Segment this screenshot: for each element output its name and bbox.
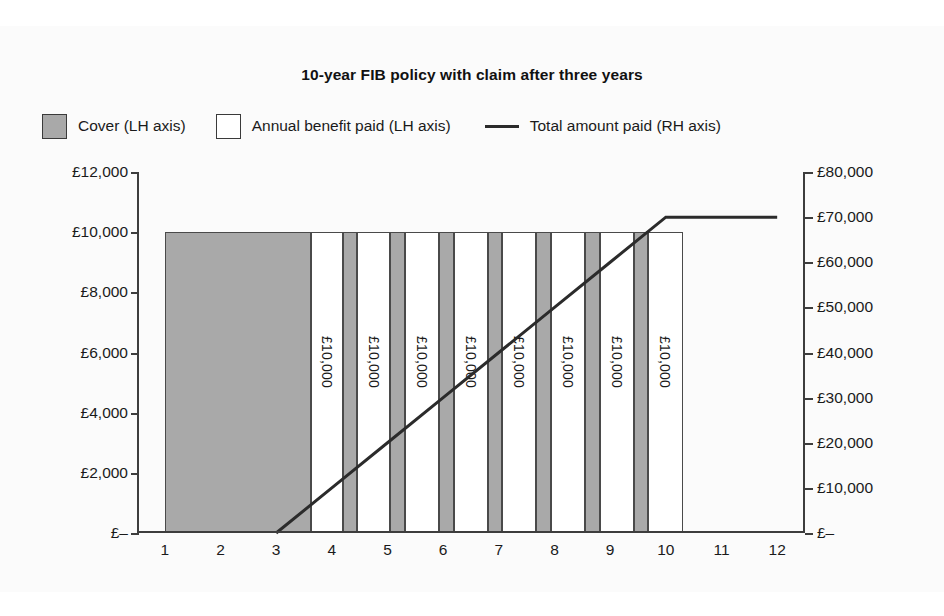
legend-label-annual-benefit: Annual benefit paid (LH axis) [252, 117, 451, 135]
right-axis-labels: £–£10,000£20,000£30,000£40,000£50,000£60… [817, 172, 927, 533]
x-axis-labels: 123456789101112 [137, 541, 805, 569]
legend-swatch-benefit-icon [216, 114, 241, 139]
x-axis-tick-label: 4 [328, 541, 337, 559]
right-axis-tick-mark [805, 533, 813, 535]
chart-legend: Cover (LH axis) Annual benefit paid (LH … [42, 110, 906, 142]
right-axis-tick-mark [805, 488, 813, 490]
legend-item-annual-benefit: Annual benefit paid (LH axis) [216, 114, 451, 139]
right-axis-tick-label: £40,000 [817, 345, 873, 361]
chart-title: 10-year FIB policy with claim after thre… [0, 66, 944, 84]
x-axis-tick-label: 2 [216, 541, 225, 559]
plot-area: £10,000£10,000£10,000£10,000£10,000£10,0… [137, 172, 805, 533]
left-axis-labels: £–£2,000£4,000£6,000£8,000£10,000£12,000 [28, 172, 128, 533]
right-axis-tick-label: £70,000 [817, 209, 873, 225]
right-axis-tick-label: £30,000 [817, 390, 873, 406]
right-axis-tick-mark [805, 172, 813, 174]
left-axis-tick-label: £12,000 [72, 164, 128, 180]
right-axis-tick-mark [805, 353, 813, 355]
x-axis-tick-label: 7 [495, 541, 504, 559]
legend-label-cover: Cover (LH axis) [78, 117, 186, 135]
x-axis-tick-label: 12 [769, 541, 786, 559]
right-axis-tick-label: £20,000 [817, 435, 873, 451]
x-axis-tick-label: 5 [383, 541, 392, 559]
x-axis-tick-label: 10 [657, 541, 674, 559]
x-axis-tick-label: 8 [550, 541, 559, 559]
right-axis-tick-label: £60,000 [817, 254, 873, 270]
legend-item-cover: Cover (LH axis) [42, 114, 186, 139]
right-axis-tick-mark [805, 217, 813, 219]
plot-frame [137, 172, 805, 533]
right-axis-tick-mark [805, 443, 813, 445]
left-axis-tick-label: £4,000 [81, 405, 128, 421]
right-axis-tick-label: £50,000 [817, 299, 873, 315]
x-axis-tick-label: 3 [272, 541, 281, 559]
right-axis-tick-label: £80,000 [817, 164, 873, 180]
left-axis-tick-label: £8,000 [81, 284, 128, 300]
x-axis-tick-label: 6 [439, 541, 448, 559]
right-axis-tick-label: £10,000 [817, 480, 873, 496]
right-axis-tick-label: £– [817, 525, 834, 541]
chart-figure: 10-year FIB policy with claim after thre… [0, 0, 944, 616]
left-axis-tick-label: £6,000 [81, 345, 128, 361]
right-axis-ticks [805, 172, 815, 533]
right-axis-tick-mark [805, 398, 813, 400]
left-axis-tick-label: £10,000 [72, 224, 128, 240]
left-axis-tick-mark [131, 533, 139, 535]
legend-line-total-icon [485, 125, 519, 128]
x-axis-tick-label: 9 [606, 541, 615, 559]
legend-item-total-paid: Total amount paid (RH axis) [485, 117, 721, 135]
legend-label-total-paid: Total amount paid (RH axis) [530, 117, 721, 135]
legend-swatch-cover-icon [42, 114, 67, 139]
right-axis-tick-mark [805, 307, 813, 309]
left-axis-tick-label: £2,000 [81, 465, 128, 481]
right-axis-tick-mark [805, 262, 813, 264]
x-axis-tick-label: 1 [161, 541, 170, 559]
left-axis-tick-label: £– [111, 525, 128, 541]
x-axis-tick-label: 11 [713, 541, 729, 559]
